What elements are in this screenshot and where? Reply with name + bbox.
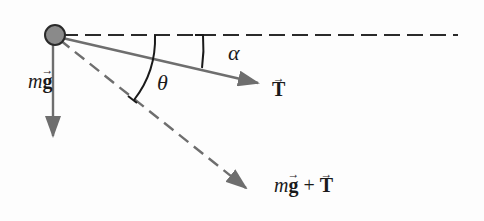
diagram-graphics	[0, 0, 484, 221]
resultant-label-T: T	[320, 174, 333, 197]
resultant-label: mg + T	[274, 174, 333, 197]
weight-label-g: g	[42, 70, 52, 93]
resultant-label-g: g	[288, 174, 298, 197]
resultant-label-m: m	[274, 174, 288, 196]
pendulum-ball	[45, 25, 65, 45]
tension-label: T	[272, 78, 285, 101]
pendulum-force-diagram: mg θ α T mg + T	[0, 0, 484, 221]
theta-angle-arc	[134, 35, 155, 100]
weight-label: mg	[28, 70, 52, 93]
weight-label-m: m	[28, 70, 42, 92]
alpha-angle-arc	[195, 35, 203, 68]
resultant-label-plus: +	[303, 174, 314, 196]
theta-label: θ	[157, 70, 168, 96]
alpha-label: α	[228, 40, 240, 66]
tension-label-T: T	[272, 78, 285, 101]
